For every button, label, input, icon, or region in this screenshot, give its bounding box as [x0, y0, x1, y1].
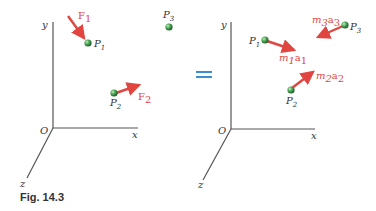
force-arrow-f2: [116, 85, 139, 93]
particle-label-p3: P3: [162, 9, 175, 23]
particle-p3: [165, 23, 172, 30]
left-diagram: O y x z F1 P1 P3 P2 F2: [19, 9, 175, 189]
effective-force-label-m2a2: m2a2: [316, 70, 344, 84]
particle-label-p1: P1: [248, 35, 260, 49]
force-label-f1: F1: [78, 10, 91, 24]
right-z-label: z: [197, 179, 204, 190]
left-y-label: y: [41, 19, 48, 30]
effective-force-arrow-m1a1: [267, 41, 294, 50]
effective-force-label-m3a3: m3a3: [312, 14, 340, 28]
force-label-f2: F2: [138, 91, 151, 105]
figure-caption: Fig. 14.3: [20, 191, 64, 203]
particle-label-p2: P2: [109, 97, 122, 111]
particle-p1: [84, 39, 91, 46]
right-x-label: x: [311, 130, 317, 141]
particle-p3: [341, 21, 348, 28]
particle-p2: [110, 89, 117, 96]
right-y-label: y: [220, 19, 227, 30]
left-x-label: x: [132, 129, 138, 140]
right-origin-label: O: [218, 125, 226, 136]
left-origin-label: O: [40, 125, 48, 136]
particle-label-p2: P2: [285, 95, 298, 109]
particle-p1: [261, 36, 268, 43]
left-z-label: z: [19, 178, 26, 189]
right-diagram: O y x z P1 m1a1 P3 m3a3 P2 m2a2: [197, 14, 362, 190]
figure-canvas: O y x z F1 P1 P3 P2 F2: [0, 0, 376, 211]
particle-label-p3: P3: [349, 21, 362, 35]
right-z-axis: [203, 129, 231, 180]
particle-label-p1: P1: [93, 38, 105, 52]
effective-force-label-m1a1: m1a1: [279, 52, 307, 66]
effective-force-arrow-m2a2: [292, 72, 313, 88]
equals-sign: [196, 72, 212, 77]
particle-p2: [287, 86, 294, 93]
